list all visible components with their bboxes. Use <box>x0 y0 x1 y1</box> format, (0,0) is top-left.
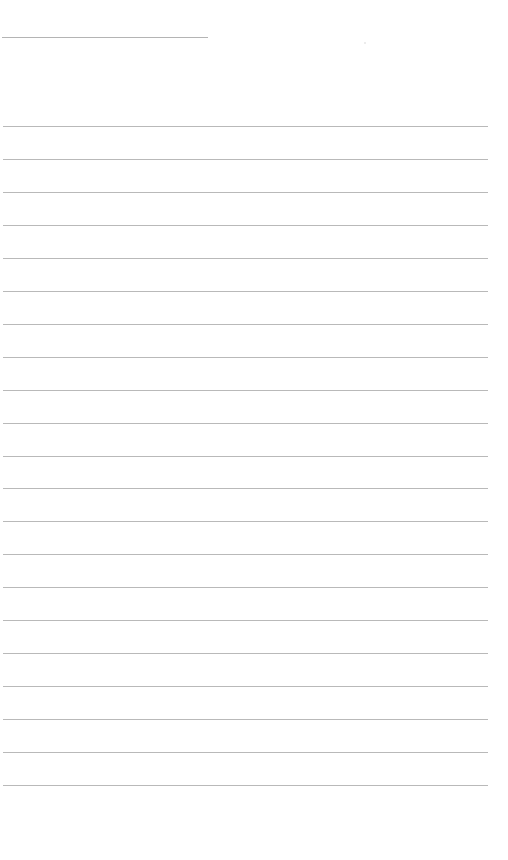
ruled-line <box>3 126 488 127</box>
ruled-line <box>3 686 488 687</box>
ruled-line <box>3 357 488 358</box>
ruled-line <box>3 488 488 489</box>
header-name-line <box>2 37 208 38</box>
lined-paper-page <box>0 0 508 860</box>
ruled-line <box>3 554 488 555</box>
ruled-line <box>3 719 488 720</box>
ruled-line <box>3 785 488 786</box>
ruled-line <box>3 423 488 424</box>
ruled-line <box>3 752 488 753</box>
ruled-line <box>3 324 488 325</box>
ruled-line <box>3 653 488 654</box>
ruled-line <box>3 258 488 259</box>
ruled-line <box>3 620 488 621</box>
ruled-line <box>3 521 488 522</box>
ruled-line <box>3 192 488 193</box>
ruled-line <box>3 225 488 226</box>
ruled-line <box>3 587 488 588</box>
paper-speck <box>364 42 366 44</box>
ruled-line <box>3 456 488 457</box>
ruled-line <box>3 291 488 292</box>
ruled-line <box>3 390 488 391</box>
ruled-line <box>3 159 488 160</box>
